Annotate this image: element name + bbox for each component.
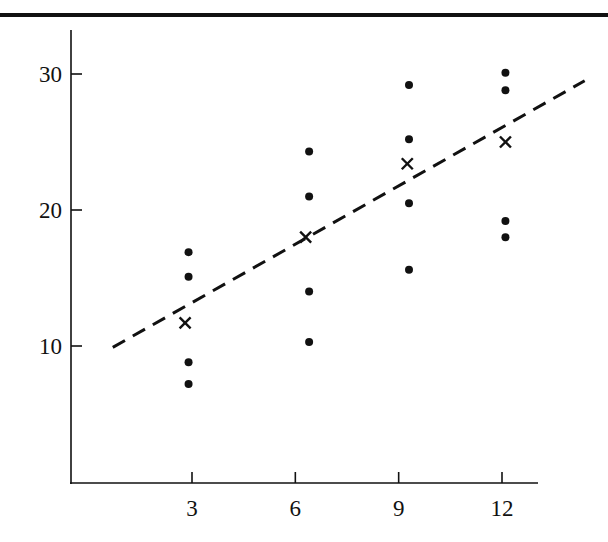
data-point-dot bbox=[305, 148, 313, 156]
data-point-dot bbox=[185, 380, 193, 388]
data-point-dot bbox=[501, 233, 509, 241]
y-axis-ticks: 102030 bbox=[39, 62, 82, 359]
mean-x-marker bbox=[500, 137, 511, 148]
x-axis: 36912 bbox=[70, 472, 538, 521]
data-point-dot bbox=[185, 358, 193, 366]
x-tick-label: 6 bbox=[290, 496, 302, 521]
data-point-dot bbox=[185, 248, 193, 256]
y-tick-label: 30 bbox=[39, 62, 62, 87]
fit-line-dashed bbox=[113, 81, 585, 348]
data-point-dot bbox=[305, 288, 313, 296]
data-point-dot bbox=[405, 199, 413, 207]
y-tick-label: 20 bbox=[39, 198, 62, 223]
x-axis-ticks: 36912 bbox=[186, 472, 513, 521]
x-tick-label: 12 bbox=[491, 496, 514, 521]
regression-line bbox=[113, 81, 585, 348]
mean-x-marker bbox=[402, 158, 413, 169]
data-point-dot bbox=[405, 266, 413, 274]
x-tick-label: 9 bbox=[393, 496, 405, 521]
data-point-dot bbox=[501, 86, 509, 94]
data-points bbox=[180, 69, 511, 388]
mean-x-marker bbox=[180, 317, 191, 328]
x-tick-label: 3 bbox=[186, 496, 198, 521]
data-point-dot bbox=[305, 192, 313, 200]
data-point-dot bbox=[305, 338, 313, 346]
data-point-dot bbox=[405, 81, 413, 89]
y-tick-label: 10 bbox=[39, 334, 62, 359]
scatter-chart: 102030 36912 bbox=[0, 0, 608, 542]
data-point-dot bbox=[405, 135, 413, 143]
mean-x-marker bbox=[300, 232, 311, 243]
data-point-dot bbox=[501, 69, 509, 77]
data-point-dot bbox=[501, 217, 509, 225]
y-axis: 102030 bbox=[39, 30, 82, 484]
data-point-dot bbox=[185, 273, 193, 281]
